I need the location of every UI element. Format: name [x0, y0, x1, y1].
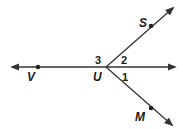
label-s: S	[139, 16, 147, 30]
point-m	[149, 106, 154, 111]
angle-label-1: 1	[122, 71, 128, 83]
point-v	[36, 65, 41, 70]
label-u: U	[93, 70, 102, 84]
label-m: M	[135, 110, 146, 124]
geometry-diagram: V U S M 3 2 1	[0, 0, 183, 129]
angle-label-2: 2	[121, 54, 127, 66]
point-s	[149, 24, 154, 29]
angle-label-3: 3	[95, 54, 101, 66]
label-v: V	[27, 70, 36, 84]
